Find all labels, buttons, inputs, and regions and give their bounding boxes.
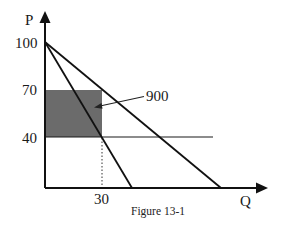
figure-caption: Figure 13-1: [131, 206, 185, 218]
x-axis-label: Q: [240, 194, 251, 209]
tick-label-40: 40: [22, 131, 37, 146]
area-value-label: 900: [146, 89, 169, 104]
shaded-area-900: [46, 90, 102, 137]
x-axis-arrow-icon: [256, 183, 268, 194]
annotation-arrow-line: [100, 97, 144, 107]
y-axis-arrow-icon: [40, 11, 51, 23]
tick-label-100: 100: [15, 36, 38, 51]
y-axis-label: P: [25, 13, 33, 28]
tick-label-30: 30: [94, 192, 109, 207]
tick-label-70: 70: [22, 83, 37, 98]
